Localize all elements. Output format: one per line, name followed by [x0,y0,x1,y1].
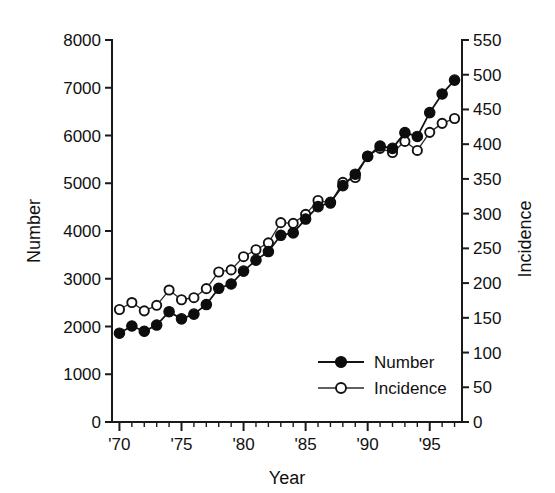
data-point-number [288,228,298,238]
data-point-incidence [189,293,198,302]
series-markers-incidence [115,114,459,316]
x-tick-label: '90 [357,435,379,454]
data-point-incidence [289,219,298,228]
left-axis-ticks [105,40,112,422]
legend-marker-number [336,357,347,368]
right-tick-label: 300 [473,205,501,224]
x-tick-label: '75 [170,435,192,454]
legend-marker-incidence [336,383,346,393]
x-axis-ticks [119,422,454,431]
x-tick-label: '70 [108,435,130,454]
left-tick-label: 8000 [63,31,101,50]
data-point-number [176,314,186,324]
right-tick-label: 200 [473,274,501,293]
x-tick-label: '85 [295,435,317,454]
right-tick-label: 50 [473,378,492,397]
data-point-incidence [251,245,260,254]
data-point-incidence [438,119,447,128]
right-tick-label: 250 [473,239,501,258]
data-point-number [189,309,199,319]
right-axis-tick-labels: 050100150200250300350400450500550 [473,31,501,432]
data-point-incidence [164,285,173,294]
left-tick-label: 7000 [63,79,101,98]
data-point-number [350,169,360,179]
data-point-number [238,266,248,276]
data-point-number [362,151,372,161]
data-point-number [226,279,236,289]
series-markers-number [114,75,459,338]
right-tick-label: 100 [473,344,501,363]
data-point-number [338,180,348,190]
x-tick-label: '95 [419,435,441,454]
data-point-incidence [115,305,124,314]
left-tick-label: 2000 [63,318,101,337]
left-tick-label: 5000 [63,174,101,193]
data-point-incidence [152,301,161,310]
left-tick-label: 1000 [63,365,101,384]
data-point-incidence [127,298,136,307]
data-point-number [276,230,286,240]
left-tick-label: 6000 [63,127,101,146]
right-tick-label: 0 [473,413,482,432]
data-point-number [449,75,459,85]
data-point-number [164,307,174,317]
right-tick-label: 350 [473,170,501,189]
right-tick-label: 500 [473,66,501,85]
left-axis-tick-labels: 010002000300040005000600070008000 [63,31,101,432]
data-point-incidence [227,265,236,274]
data-point-number [313,201,323,211]
chart-canvas: 010002000300040005000600070008000 050100… [0,0,555,493]
data-point-number [412,131,422,141]
right-axis-ticks [462,40,469,422]
legend-label-incidence: Incidence [374,379,447,398]
x-tick-label: '80 [232,435,254,454]
data-point-number [400,127,410,137]
data-point-incidence [425,128,434,137]
right-tick-label: 400 [473,135,501,154]
series-line-incidence [119,118,454,310]
data-point-incidence [177,295,186,304]
x-axis-title: Year [269,468,305,488]
legend-label-number: Number [374,353,435,372]
data-point-number [139,326,149,336]
left-tick-label: 4000 [63,222,101,241]
data-point-incidence [450,114,459,123]
data-point-number [201,299,211,309]
data-point-incidence [276,218,285,227]
data-point-number [251,255,261,265]
right-tick-label: 550 [473,31,501,50]
data-point-incidence [140,306,149,315]
right-tick-label: 150 [473,309,501,328]
data-point-number [214,283,224,293]
right-tick-label: 450 [473,100,501,119]
data-point-number [151,320,161,330]
data-point-number [375,141,385,151]
x-axis-tick-labels: '70'75'80'85'90'95 [108,435,440,454]
data-point-incidence [413,146,422,155]
data-point-number [114,328,124,338]
y2-axis-title: Incidence [515,200,535,277]
data-point-number [127,321,137,331]
data-point-incidence [214,267,223,276]
y-axis-title: Number [24,199,44,263]
chart-legend: Number Incidence [318,353,447,398]
data-point-number [300,214,310,224]
data-point-number [263,246,273,256]
data-point-number [425,107,435,117]
chart-figure: 010002000300040005000600070008000 050100… [0,0,555,493]
data-point-number [325,197,335,207]
data-point-number [437,89,447,99]
data-point-number [387,143,397,153]
data-point-incidence [239,252,248,261]
data-point-incidence [202,284,211,293]
left-tick-label: 3000 [63,270,101,289]
left-tick-label: 0 [92,413,101,432]
